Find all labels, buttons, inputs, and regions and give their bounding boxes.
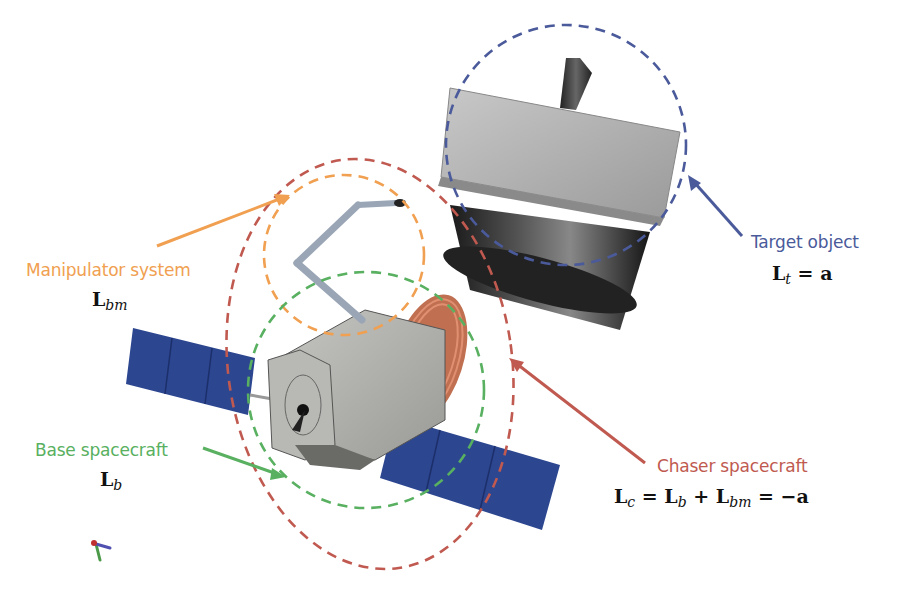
eq-subscript: bm [105, 297, 127, 313]
target-object-label: Target object [751, 232, 859, 252]
target-object-equation: Lt = a [772, 262, 832, 284]
chaser-spacecraft-label: Chaser spacecraft [657, 456, 807, 476]
eq-operator: = [635, 485, 664, 507]
base-spacecraft-label: Base spacecraft [35, 440, 168, 460]
base-spacecraft-equation: Lb [100, 468, 122, 490]
eq-subscript: b [113, 477, 122, 493]
eq-symbol: L [100, 468, 113, 490]
eq-rhs: = −a [751, 485, 808, 507]
manipulator-arm [297, 199, 406, 320]
chaser-spacecraft-equation: Lc = Lb + Lbm = −a [614, 485, 809, 507]
eq-subscript: bm [729, 494, 751, 510]
eq-subscript: b [678, 494, 687, 510]
eq-symbol: L [772, 262, 785, 284]
eq-subscript: c [627, 494, 635, 510]
solar-panel-left [126, 328, 278, 415]
eq-rhs: = a [791, 262, 832, 284]
eq-subscript: t [785, 271, 791, 287]
manipulator-arrow [157, 194, 290, 246]
eq-symbol: L [614, 485, 627, 507]
manipulator-system-equation: Lbm [92, 288, 128, 310]
target-object [438, 58, 680, 330]
eq-symbol: L [716, 485, 729, 507]
eq-symbol: L [664, 485, 677, 507]
eq-operator: + [687, 485, 716, 507]
manipulator-system-label: Manipulator system [26, 260, 191, 280]
coordinate-axes [91, 540, 110, 560]
chaser-arrow [509, 358, 645, 463]
eq-symbol: L [92, 288, 105, 310]
diagram-stage: Target object Lt = a Manipulator system … [0, 0, 919, 594]
target-arrow [688, 175, 742, 236]
